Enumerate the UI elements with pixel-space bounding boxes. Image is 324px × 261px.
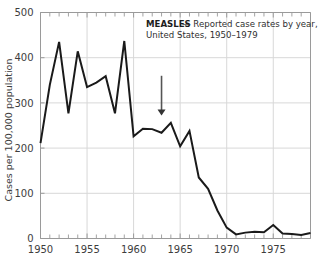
x-axis-tick-label: 1970 [214, 244, 239, 255]
chart-canvas: 0100200300400500 19501955196019651970197… [0, 0, 324, 261]
x-axis-tick-label: 1950 [28, 244, 53, 255]
y-axis-tick-label: 100 [14, 188, 33, 199]
x-axis-tick-label: 1960 [121, 244, 146, 255]
y-axis-tick-label: 0 [27, 233, 33, 244]
chart-title-scope: United States, 1950–1979 [146, 30, 258, 40]
y-axis-tick-label: 500 [14, 7, 33, 18]
y-axis-title: Cases per 100,000 population [3, 59, 14, 202]
y-axis-tick-label: 300 [14, 98, 33, 109]
chart-title-description: — Reported case rates by year, [182, 19, 318, 29]
measles-case-rate-chart-figure: 0100200300400500 19501955196019651970197… [0, 0, 324, 261]
x-axis-tick-label: 1955 [74, 244, 99, 255]
y-axis-tick-label: 400 [14, 52, 33, 63]
x-axis-tick-label: 1975 [261, 244, 286, 255]
y-axis-tick-label: 200 [14, 143, 33, 154]
x-axis-tick-label: 1965 [167, 244, 192, 255]
